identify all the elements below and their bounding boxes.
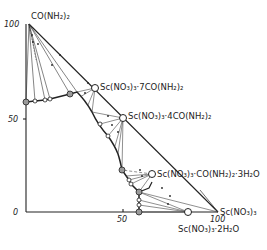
y-tick-50: 50 <box>8 115 18 124</box>
tie-lines-urea <box>26 24 77 102</box>
y-tick-0: 0 <box>13 208 18 217</box>
label-compound-4urea: Sc(NO₃)₃·4CO(NH₂)₂ <box>128 111 212 121</box>
y-tick-100: 100 <box>4 20 19 29</box>
phase-diagram: 100 50 0 50 100 <box>0 0 267 250</box>
tie-lines-comp7 <box>77 88 95 112</box>
label-dihydrate: Sc(NO₃)₃·2H₂O <box>178 224 239 234</box>
compound-points <box>92 85 192 216</box>
tie-lines-sc <box>139 192 218 212</box>
solution-points <box>33 97 141 207</box>
label-urea: CO(NH₂)₂ <box>31 11 70 21</box>
eutonic-points <box>23 91 142 215</box>
label-sc-nitrate: Sc(NO₃)₃ <box>220 207 257 217</box>
label-compound-7urea: Sc(NO₃)₃·7CO(NH₂)₂ <box>100 82 184 92</box>
label-compound-1urea-3h2o: Sc(NO₃)₃·CO(NH₂)₂·3H₂O <box>157 169 260 179</box>
x-tick-50: 50 <box>117 215 127 224</box>
